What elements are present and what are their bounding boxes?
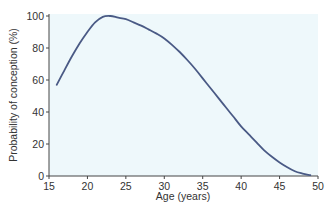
y-axis-label: Probability of conception (%) [7,28,19,162]
x-tick-label: 40 [235,180,247,192]
x-tick-label: 25 [120,180,132,192]
y-tick-label: 20 [32,138,44,150]
y-axis-ticks: 020406080100 [26,10,49,182]
y-tick-label: 100 [26,10,44,22]
y-tick-label: 60 [32,74,44,86]
y-tick-label: 80 [32,42,44,54]
y-tick-label: 40 [32,106,44,118]
plot-area [49,14,318,176]
x-tick-label: 20 [82,180,94,192]
conception-probability-chart: 020406080100 1520253035404550 Age (years… [0,0,332,214]
x-tick-label: 15 [43,180,55,192]
x-tick-label: 50 [312,180,324,192]
x-tick-label: 45 [274,180,286,192]
x-axis-label: Age (years) [156,190,210,202]
